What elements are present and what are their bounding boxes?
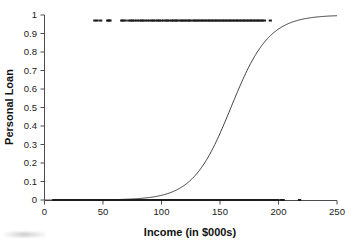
x-tick-label: 150: [212, 206, 228, 217]
x-tick-label: 0: [42, 206, 47, 217]
y-tick-label: 0.1: [24, 176, 37, 187]
y-tick-label: 0: [32, 194, 37, 205]
y-tick-label: 0.9: [24, 28, 37, 39]
data-point: [282, 199, 285, 201]
y-tick-label: 0.8: [24, 46, 37, 57]
chart-canvas: 00.10.20.30.40.50.60.70.80.91 0501001502…: [0, 0, 357, 243]
y-tick-label: 0.2: [24, 157, 37, 168]
y-axis-title: Personal Loan: [3, 69, 15, 145]
axes: [45, 15, 338, 201]
x-axis-ticks: 050100150200250: [42, 201, 345, 218]
y-tick-label: 0.3: [24, 139, 37, 150]
data-point: [276, 199, 279, 201]
data-point: [108, 20, 111, 22]
y-tick-label: 0.4: [24, 120, 37, 131]
scan-artifact: [2, 232, 46, 237]
data-point: [124, 20, 127, 22]
x-tick-label: 250: [329, 206, 345, 217]
logistic-regression-chart: 00.10.20.30.40.50.60.70.80.91 0501001502…: [0, 0, 357, 243]
x-tick-label: 100: [154, 206, 170, 217]
y-tick-label: 0.7: [24, 65, 37, 76]
y-axis-ticks: 00.10.20.30.40.50.60.70.80.91: [24, 9, 45, 205]
logistic-curve: [45, 16, 338, 200]
y-tick-label: 0.6: [24, 83, 37, 94]
data-point: [99, 20, 102, 22]
data-point: [96, 20, 99, 22]
data-points-loan-declined: [52, 199, 301, 201]
x-axis-title: Income (in $000s): [144, 226, 237, 238]
x-tick-label: 50: [98, 206, 109, 217]
y-tick-label: 0.5: [24, 102, 37, 113]
data-point: [298, 199, 301, 201]
data-point: [269, 20, 272, 22]
data-point: [263, 20, 266, 22]
y-tick-label: 1: [32, 9, 37, 20]
data-points-loan-accepted: [93, 20, 272, 22]
x-tick-label: 200: [271, 206, 287, 217]
